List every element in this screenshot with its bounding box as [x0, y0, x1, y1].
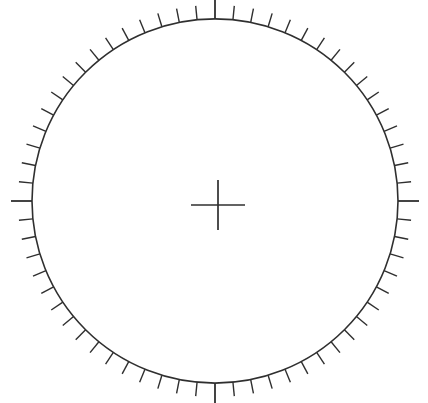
canvas-background [0, 0, 428, 403]
dial-gauge-figure [0, 0, 428, 403]
dial-canvas [0, 0, 428, 403]
